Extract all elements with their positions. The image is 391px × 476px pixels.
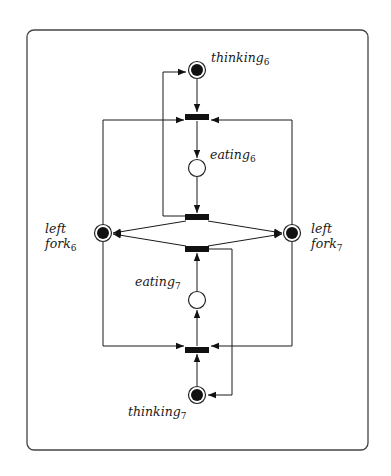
place-leftfork6 (95, 225, 112, 242)
transition-take6 (185, 114, 209, 120)
token-icon (97, 227, 109, 239)
petri-net-diagram: thinking6 eating6 left fork6 left fork7 … (0, 0, 391, 476)
place-eating6 (189, 160, 206, 177)
place-thinking7 (189, 387, 206, 404)
transition-release6 (185, 214, 209, 220)
place-eating7 (189, 292, 206, 309)
label-thinking7: thinking7 (128, 404, 187, 421)
label-leftfork7-line1: left (311, 221, 333, 236)
label-thinking6: thinking6 (211, 50, 270, 67)
place-thinking6 (189, 62, 206, 79)
token-icon (191, 64, 203, 76)
token-icon (191, 389, 203, 401)
label-leftfork6-line1: left (45, 221, 67, 236)
transition-release7 (185, 246, 209, 252)
place-leftfork7 (284, 225, 301, 242)
label-eating7: eating7 (135, 274, 181, 291)
transition-take7 (185, 347, 209, 353)
token-icon (286, 227, 298, 239)
label-eating6: eating6 (210, 147, 256, 164)
